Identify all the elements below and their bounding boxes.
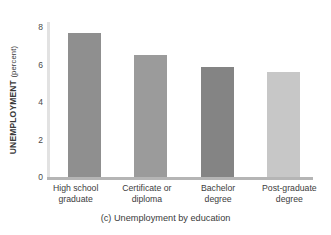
bar — [68, 33, 101, 177]
x-axis-category-label-line: High school — [40, 183, 111, 194]
y-tick-label: 0 — [38, 173, 43, 182]
y-axis-label-main: UNEMPLOYMENT — [8, 80, 18, 154]
x-axis-category-label-line: Post-graduate — [254, 183, 325, 194]
y-tick-label: 8 — [38, 23, 43, 32]
x-axis-category-label-line: graduate — [40, 194, 111, 205]
x-axis-category-label-line: Bachelor — [183, 183, 254, 194]
plot-area: 02468 — [47, 18, 313, 180]
x-axis-category-label-line: degree — [183, 194, 254, 205]
y-axis-label-text: UNEMPLOYMENT (percent) — [8, 46, 18, 154]
unemployment-by-education-chart: UNEMPLOYMENT (percent) 02468 High school… — [0, 0, 331, 235]
bar — [134, 55, 167, 177]
x-axis-category-label: Bachelordegree — [183, 183, 254, 204]
x-axis-category-label: Post-graduatedegree — [254, 183, 325, 204]
y-axis-label: UNEMPLOYMENT (percent) — [2, 20, 24, 180]
x-axis-category-labels: High schoolgraduateCertificate ordiploma… — [40, 183, 325, 211]
y-tick-label: 2 — [38, 135, 43, 144]
y-tick-label: 4 — [38, 98, 43, 107]
x-axis-category-label-line: Certificate or — [111, 183, 182, 194]
x-axis-line — [47, 177, 313, 180]
x-axis-category-label: Certificate ordiploma — [111, 183, 182, 204]
y-tick-label: 6 — [38, 61, 43, 70]
figure-caption: (c) Unemployment by education — [0, 213, 331, 223]
bar-group — [47, 18, 313, 177]
x-axis-category-label: High schoolgraduate — [40, 183, 111, 204]
bar — [201, 67, 234, 177]
y-axis-label-unit: (percent) — [9, 46, 18, 78]
x-axis-category-label-line: diploma — [111, 194, 182, 205]
x-axis-category-label-line: degree — [254, 194, 325, 205]
bar — [267, 72, 300, 177]
